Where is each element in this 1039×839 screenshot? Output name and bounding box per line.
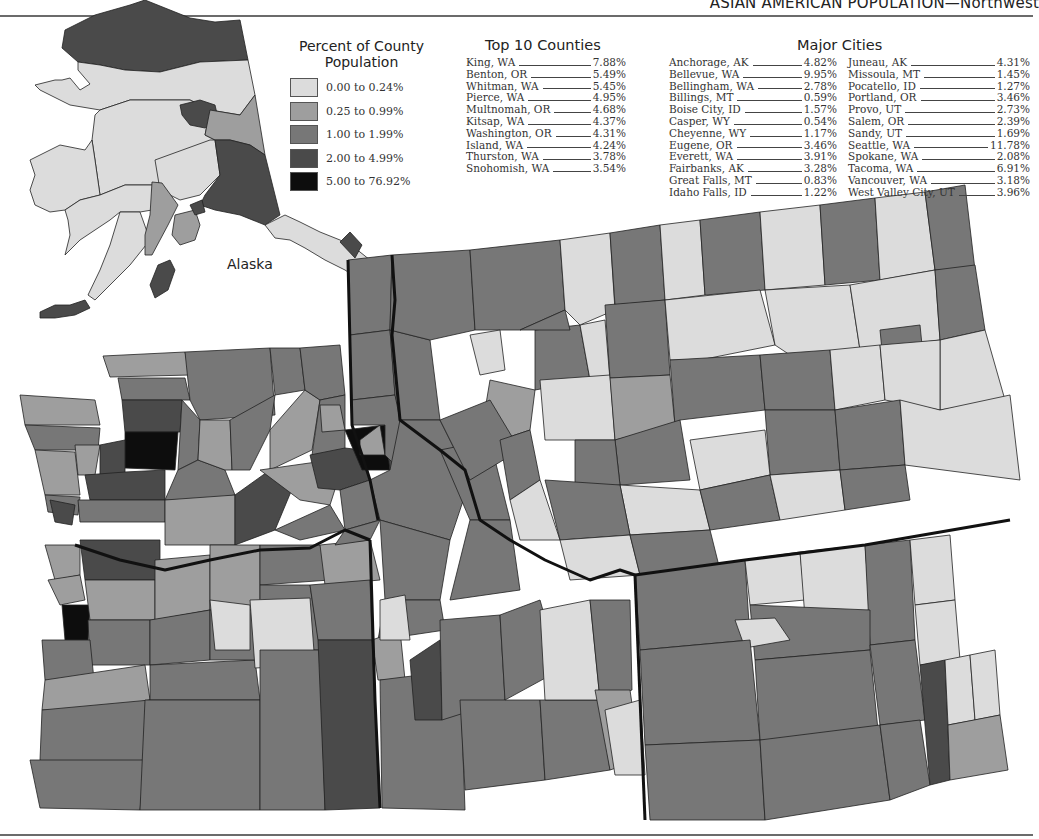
legend-swatch xyxy=(290,78,318,97)
list-item: Benton, OR5.49% xyxy=(466,69,626,81)
list-item: Great Falls, MT0.83% xyxy=(669,175,837,187)
list-item: Washington, OR4.31% xyxy=(466,128,626,140)
legend-item: 2.00 to 4.99% xyxy=(288,147,443,171)
legend-item: 0.00 to 0.24% xyxy=(288,76,443,100)
legend-swatch xyxy=(290,149,318,168)
list-item: Casper, WY0.54% xyxy=(669,116,837,128)
legend-swatch xyxy=(290,172,318,191)
list-item: Salem, OR2.39% xyxy=(848,116,1030,128)
list-item: Bellevue, WA9.95% xyxy=(669,69,837,81)
list-item: Vancouver, WA3.18% xyxy=(848,175,1030,187)
top-counties-title: Top 10 Counties xyxy=(485,37,601,53)
list-item: West Valley City, UT3.96% xyxy=(848,187,1030,199)
list-item: Snohomish, WA3.54% xyxy=(466,163,626,175)
list-item: Sandy, UT1.69% xyxy=(848,128,1030,140)
wyoming-map xyxy=(635,535,1008,820)
legend-item: 1.00 to 1.99% xyxy=(288,123,443,147)
legend-title: Percent of County Population xyxy=(280,38,443,70)
washington-map xyxy=(20,345,400,545)
major-cities-col2: Juneau, AK4.31% Missoula, MT1.45% Pocate… xyxy=(848,57,1030,199)
legend-item: 5.00 to 76.92% xyxy=(288,170,443,194)
list-item: Cheyenne, WY1.17% xyxy=(669,128,837,140)
legend-item: 0.25 to 0.99% xyxy=(288,100,443,124)
legend-swatch xyxy=(290,125,318,144)
list-item: Missoula, MT1.45% xyxy=(848,69,1030,81)
legend-items: 0.00 to 0.24% 0.25 to 0.99% 1.00 to 1.99… xyxy=(288,76,443,194)
major-cities-col1: Anchorage, AK4.82% Bellevue, WA9.95% Bel… xyxy=(669,57,837,199)
list-item: Idaho Falls, ID1.22% xyxy=(669,187,837,199)
list-item: Kitsap, WA4.37% xyxy=(466,116,626,128)
major-cities-title: Major Cities xyxy=(797,37,882,53)
legend-swatch xyxy=(290,102,318,121)
oregon-map xyxy=(30,520,380,810)
top-counties-list: King, WA7.88% Benton, OR5.49% Whitman, W… xyxy=(466,57,626,175)
alaska-label: Alaska xyxy=(227,256,273,272)
legend: Percent of County Population 0.00 to 0.2… xyxy=(288,38,443,194)
